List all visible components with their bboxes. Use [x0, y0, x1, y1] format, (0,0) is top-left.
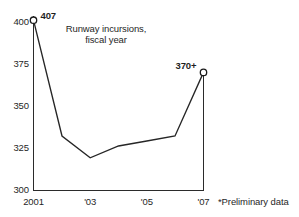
- y-tick-label-350: 350: [13, 100, 29, 111]
- data-point-marker-2007: [200, 69, 206, 75]
- chart-caption-line-1: Runway incursions,: [66, 23, 147, 34]
- line-chart: 400 375 350 325 300 2001 '03 '05 '07 407…: [0, 0, 299, 217]
- data-label-407: 407: [41, 10, 57, 21]
- y-tick-label-300: 300: [13, 184, 29, 195]
- y-tick-label-400: 400: [13, 16, 29, 27]
- chart-container: 400 375 350 325 300 2001 '03 '05 '07 407…: [0, 0, 299, 217]
- x-tick-label-2001: 2001: [23, 196, 44, 207]
- chart-caption-line-2: fiscal year: [85, 34, 127, 45]
- x-tick-label-03: '03: [84, 196, 96, 207]
- x-tick-label-05: '05: [141, 196, 153, 207]
- y-tick-label-375: 375: [13, 58, 29, 69]
- data-point-marker-2001: [30, 17, 36, 23]
- y-tick-label-325: 325: [13, 142, 29, 153]
- footnote-preliminary-data: *Preliminary data: [218, 196, 289, 207]
- x-tick-label-07: '07: [197, 196, 209, 207]
- data-label-370plus: 370+: [176, 60, 198, 71]
